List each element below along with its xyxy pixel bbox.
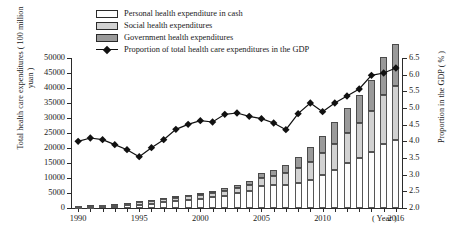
x-tick (164, 208, 165, 212)
line-data-point (111, 141, 118, 148)
x-tick (151, 208, 152, 212)
y-tick-label-right: 2.0 (409, 204, 439, 212)
y-tick-label-right: 4.5 (409, 121, 439, 129)
line-data-point (74, 138, 81, 145)
line-data-point (221, 111, 228, 118)
x-tick (115, 208, 116, 212)
x-tick (237, 208, 238, 212)
y-tick-label-right: 5.5 (409, 87, 439, 95)
x-tick (274, 208, 275, 212)
y-axis-right-line (402, 58, 403, 208)
line-data-point (209, 118, 216, 125)
x-tick-label: 2005 (241, 214, 281, 223)
legend-item-government: Government health expenditures (96, 32, 309, 43)
y-tick-label-right: 2.5 (409, 187, 439, 195)
y-tick-right (402, 175, 407, 176)
y-tick-right (402, 191, 407, 192)
y-tick-label-left: 15000 (19, 159, 65, 167)
x-tick (127, 208, 128, 212)
legend-item-proportion: Proportion of total health care expendit… (96, 44, 309, 55)
x-tick (103, 208, 104, 212)
line-data-point (343, 92, 350, 99)
x-tick (335, 208, 336, 212)
plot-area: 5000045000400003500030000250002000015000… (72, 58, 402, 208)
y-tick-label-left: 35000 (19, 99, 65, 107)
x-axis-unit: ( Year ) (372, 214, 397, 223)
y-tick-left (67, 208, 72, 209)
line-data-point (233, 109, 240, 116)
y-tick-right (402, 58, 407, 59)
y-tick-right (402, 141, 407, 142)
y-tick-label-left: 20000 (19, 144, 65, 152)
x-tick-label: 1995 (119, 214, 159, 223)
y-tick-right (402, 108, 407, 109)
line-data-point (99, 136, 106, 143)
line-data-point (319, 108, 326, 115)
y-tick-label-left: 5000 (19, 189, 65, 197)
x-tick (139, 208, 140, 212)
y-tick-right (402, 158, 407, 159)
x-tick (213, 208, 214, 212)
x-tick (200, 208, 201, 212)
x-tick (225, 208, 226, 212)
chart-root: Personal health expenditure in cash Soci… (0, 0, 457, 246)
y-tick-right (402, 208, 407, 209)
line-marker-icon (96, 46, 118, 54)
x-tick (323, 208, 324, 212)
x-tick (310, 208, 311, 212)
line-data-point (246, 113, 253, 120)
x-tick (261, 208, 262, 212)
line-data-point (123, 146, 130, 153)
legend-item-social: Social health expenditures (96, 20, 309, 31)
y-tick-label-left: 50000 (19, 54, 65, 62)
x-tick (384, 208, 385, 212)
line-data-point (87, 134, 94, 141)
line-data-point (380, 69, 387, 76)
y-axis-right-title: Proportion in the GDP ( % ) (437, 27, 447, 167)
legend-label-government: Government health expenditures (124, 33, 233, 42)
y-tick-label-right: 3.5 (409, 154, 439, 162)
legend-label-personal: Personal health expenditure in cash (124, 9, 243, 18)
y-tick-label-left: 10000 (19, 174, 65, 182)
x-tick (298, 208, 299, 212)
x-tick (396, 208, 397, 212)
line-data-point (331, 99, 338, 106)
line-data-point (184, 121, 191, 128)
y-tick-label-right: 5.0 (409, 104, 439, 112)
proportion-line (72, 58, 402, 208)
x-tick-label: 2000 (180, 214, 220, 223)
legend-label-proportion: Proportion of total health care expendit… (124, 45, 309, 54)
x-tick (249, 208, 250, 212)
y-tick-label-left: 25000 (19, 129, 65, 137)
x-tick-label: 2010 (303, 214, 343, 223)
dark-gray-swatch-icon (96, 34, 118, 42)
legend-item-personal: Personal health expenditure in cash (96, 8, 309, 19)
x-tick (371, 208, 372, 212)
x-tick (176, 208, 177, 212)
line-data-point (197, 117, 204, 124)
x-tick (188, 208, 189, 212)
y-tick-label-left: 40000 (19, 84, 65, 92)
y-tick-label-right: 3.0 (409, 171, 439, 179)
y-tick-label-right: 6.5 (409, 54, 439, 62)
legend-label-social: Social health expenditures (124, 21, 212, 30)
y-tick-label-left: 0 (19, 204, 65, 212)
y-tick-label-right: 6.0 (409, 71, 439, 79)
line-data-point (392, 64, 399, 71)
chart-legend: Personal health expenditure in cash Soci… (96, 8, 309, 56)
y-tick-label-left: 30000 (19, 114, 65, 122)
white-swatch-icon (96, 10, 118, 18)
line-data-point (270, 119, 277, 126)
y-tick-right (402, 125, 407, 126)
light-gray-swatch-icon (96, 22, 118, 30)
y-tick-right (402, 75, 407, 76)
y-tick-label-right: 4.0 (409, 137, 439, 145)
x-tick (359, 208, 360, 212)
line-data-point (258, 115, 265, 122)
x-tick-label: 1990 (58, 214, 98, 223)
x-tick (286, 208, 287, 212)
y-tick-right (402, 91, 407, 92)
x-tick (347, 208, 348, 212)
y-tick-label-left: 45000 (19, 69, 65, 77)
